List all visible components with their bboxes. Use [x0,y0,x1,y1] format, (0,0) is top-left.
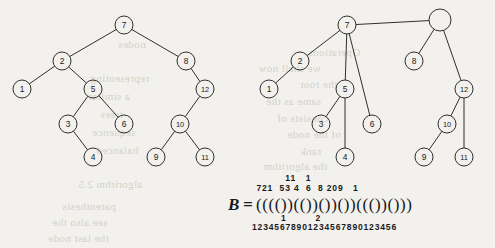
tree-edge [451,97,460,116]
tree-node-9: 9 [415,148,433,166]
tree-node-1: 1 [260,80,278,98]
tree-node-4: 4 [336,148,354,166]
tree-node-7: 7 [338,16,356,34]
right-transformed-tree: 728151236104911 [0,0,495,180]
bleed-text: parenthesis [62,200,116,212]
equation-symbol-b: B [228,195,239,215]
tree-edge [349,34,370,116]
tree-node-11: 11 [455,148,473,166]
tree-node-3: 3 [312,115,330,133]
node-label: 10 [443,120,451,129]
node-label: 2 [298,56,303,66]
node-label: 5 [343,84,348,94]
node-label: 11 [460,153,468,162]
tree-edge [345,34,346,80]
tree-edge [307,30,340,55]
right-tree-nodes: 728151236104911 [260,9,473,166]
tree-node-8: 8 [405,52,423,70]
node-label: 8 [412,56,417,66]
tree-node-10: 10 [438,115,456,133]
tree-node-root-empty [429,9,451,31]
tree-edge [276,67,294,83]
node-label-row-lower: 721 53 4 6 8 209 1 [250,183,359,193]
figure-page: Operationswe shall nowthe rootsame as th… [0,0,495,248]
bleed-text: see also the [52,216,108,228]
index-ruler-units-row: 12345678901234567890123456 [252,222,397,232]
node-label: 6 [370,119,375,129]
tree-edge [429,131,442,149]
tree-node-6: 6 [363,115,381,133]
node-circle [429,9,451,31]
tree-edge [444,30,461,80]
node-label: 3 [319,119,324,129]
balanced-parenthesis-sequence: (((())(())())())((())())) [256,195,413,215]
tree-node-2: 2 [291,52,309,70]
node-label: 1 [267,84,272,94]
node-label: 12 [460,85,468,94]
tree-edge [356,21,429,25]
bleed-text: the last node [48,232,109,244]
right-tree-edges [276,21,464,150]
equation-equals-sign: = [243,195,253,215]
tree-node-12: 12 [455,80,473,98]
tree-edge [326,96,340,116]
node-label-row-upper: 11 1 [250,173,311,183]
node-label: 4 [343,152,348,162]
tree-node-5: 5 [336,80,354,98]
node-label: 7 [345,20,350,30]
node-label: 9 [422,152,427,162]
tree-edge [419,29,434,53]
